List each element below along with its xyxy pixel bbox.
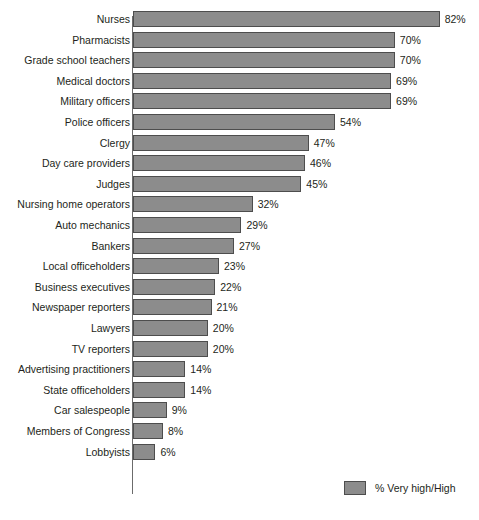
bar-row: Day care providers46% (0, 155, 479, 172)
bar (133, 382, 185, 398)
bar-row: Nursing home operators32% (0, 196, 479, 213)
bar-value-label: 14% (190, 361, 211, 378)
intro-sentence: these different fields to be honest and … (3, 0, 234, 3)
legend-label: % Very high/High (375, 482, 456, 494)
bar-category-label: Medical doctors (56, 73, 130, 90)
bar-chart: Nurses82%Pharmacists70%Grade school teac… (0, 8, 479, 468)
legend-swatch-icon (344, 481, 366, 495)
bar-row: Military officers69% (0, 93, 479, 110)
bar-value-label: 46% (310, 155, 331, 172)
bar-category-label: Day care providers (42, 155, 130, 172)
bar-row: TV reporters20% (0, 341, 479, 358)
bar-value-label: 21% (217, 299, 238, 316)
bar (133, 93, 391, 109)
bar-row: Judges45% (0, 176, 479, 193)
bar (133, 176, 301, 192)
bar (133, 135, 309, 151)
bar (133, 114, 335, 130)
bar (133, 196, 253, 212)
bar (133, 341, 208, 357)
bar-row: Police officers54% (0, 114, 479, 131)
bar-category-label: TV reporters (72, 341, 130, 358)
bar-category-label: State officeholders (43, 382, 130, 399)
bar-row: Nurses82% (0, 11, 479, 28)
bar-row: Advertising practitioners14% (0, 361, 479, 378)
bar (133, 32, 395, 48)
bar-value-label: 69% (396, 73, 417, 90)
bar-category-label: Clergy (100, 135, 130, 152)
bar (133, 52, 395, 68)
bar-value-label: 9% (172, 402, 187, 419)
bar (133, 423, 163, 439)
bar-category-label: Nursing home operators (17, 196, 130, 213)
bar-category-label: Local officeholders (43, 258, 130, 275)
bar-category-label: Lawyers (91, 320, 130, 337)
bar (133, 320, 208, 336)
bar (133, 73, 391, 89)
bar-category-label: Lobbyists (86, 444, 130, 461)
bar (133, 238, 234, 254)
bar (133, 155, 305, 171)
bar (133, 258, 219, 274)
bar-value-label: 32% (258, 196, 279, 213)
bar-row: Pharmacists70% (0, 32, 479, 49)
bar-row: Lobbyists6% (0, 444, 479, 461)
bar-value-label: 20% (213, 320, 234, 337)
bar-category-label: Pharmacists (72, 32, 130, 49)
bar-category-label: Car salespeople (54, 402, 130, 419)
bar-category-label: Advertising practitioners (18, 361, 130, 378)
chart-legend: % Very high/High (344, 481, 456, 495)
bar-row: Medical doctors69% (0, 73, 479, 90)
bar-row: Newspaper reporters21% (0, 299, 479, 316)
bar-value-label: 70% (400, 32, 421, 49)
bar-value-label: 47% (314, 135, 335, 152)
bar-category-label: Members of Congress (27, 423, 130, 440)
bar (133, 299, 212, 315)
bar-row: Car salespeople9% (0, 402, 479, 419)
bar-category-label: Military officers (60, 93, 130, 110)
bar-value-label: 6% (160, 444, 175, 461)
bar (133, 11, 440, 27)
bar-value-label: 8% (168, 423, 183, 440)
bar-value-label: 29% (246, 217, 267, 234)
bar-value-label: 70% (400, 52, 421, 69)
bar-category-label: Auto mechanics (55, 217, 130, 234)
bar (133, 402, 167, 418)
bar-row: Members of Congress8% (0, 423, 479, 440)
bar-category-label: Nurses (97, 11, 130, 28)
bar-row: Business executives22% (0, 279, 479, 296)
bar-value-label: 27% (239, 238, 260, 255)
bar-row: State officeholders14% (0, 382, 479, 399)
intro-sentence-clip: these different fields to be honest and … (0, 0, 479, 8)
bar-row: Auto mechanics29% (0, 217, 479, 234)
bar-value-label: 69% (396, 93, 417, 110)
bar (133, 217, 241, 233)
bar-value-label: 45% (306, 176, 327, 193)
bar-value-label: 23% (224, 258, 245, 275)
bar-value-label: 54% (340, 114, 361, 131)
bar-row: Local officeholders23% (0, 258, 479, 275)
bar (133, 444, 155, 460)
bar (133, 279, 215, 295)
bar-row: Clergy47% (0, 135, 479, 152)
bar-row: Bankers27% (0, 238, 479, 255)
bar-category-label: Bankers (91, 238, 130, 255)
bar-category-label: Police officers (65, 114, 130, 131)
bar-value-label: 82% (445, 11, 466, 28)
bar-category-label: Business executives (35, 279, 130, 296)
bar-value-label: 22% (220, 279, 241, 296)
bar-category-label: Grade school teachers (24, 52, 130, 69)
bar-category-label: Newspaper reporters (32, 299, 130, 316)
bar (133, 361, 185, 377)
bar-row: Lawyers20% (0, 320, 479, 337)
bar-row: Grade school teachers70% (0, 52, 479, 69)
bar-value-label: 14% (190, 382, 211, 399)
bar-value-label: 20% (213, 341, 234, 358)
bar-category-label: Judges (96, 176, 130, 193)
